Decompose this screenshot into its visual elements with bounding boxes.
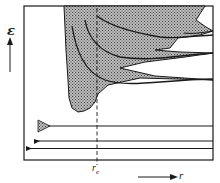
- equilibrium-label-subscript: e: [96, 168, 99, 176]
- equilibrium-label: re: [92, 163, 99, 176]
- x-axis-label: r: [179, 170, 183, 181]
- y-axis-arrow-head: [7, 37, 13, 45]
- y-axis-label: ε: [7, 24, 15, 37]
- x-axis-arrow-head: [170, 174, 178, 180]
- diagram-canvas: [0, 0, 220, 183]
